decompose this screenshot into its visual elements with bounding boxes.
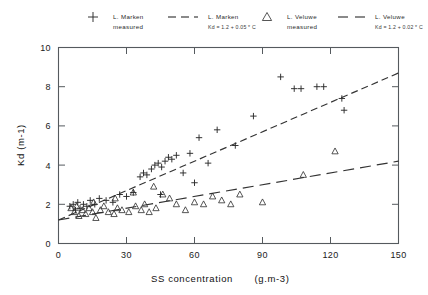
data-point-triangle: [191, 199, 197, 205]
data-point-triangle: [259, 199, 265, 205]
chart-legend: L. Marken measured L. Marken Kd = 1.2 + …: [88, 12, 423, 30]
data-point-triangle: [300, 172, 306, 178]
data-point-plus: [92, 201, 98, 207]
data-point-triangle: [173, 201, 179, 207]
data-point-triangle: [182, 207, 188, 213]
data-point-plus: [162, 158, 168, 164]
legend-equation: Kd = 1.2 + 0.05 * C: [208, 24, 256, 30]
data-point-triangle: [228, 201, 234, 207]
legend-item-veluwe-fit: L. Veluwe Kd = 1.2 + 0.02 * C: [338, 13, 423, 30]
data-point-triangle: [237, 191, 243, 197]
x-tick-label: 0: [56, 250, 61, 260]
data-point-plus: [158, 164, 164, 170]
y-axis-ticks: [59, 48, 399, 244]
scatter-plot: L. Marken measured L. Marken Kd = 1.2 + …: [0, 0, 428, 295]
data-point-plus: [291, 85, 297, 91]
data-point-triangle: [111, 211, 117, 217]
x-tick-label: 90: [257, 250, 268, 260]
data-point-triangle: [105, 209, 111, 215]
chart-figure: L. Marken measured L. Marken Kd = 1.2 + …: [0, 0, 428, 295]
data-point-triangle: [151, 183, 157, 189]
data-point-triangle: [146, 209, 152, 215]
data-point-triangle: [166, 195, 172, 201]
data-point-plus: [173, 152, 179, 158]
y-tick-label: 8: [46, 82, 51, 92]
x-axis-title: SS concentration: [151, 273, 233, 284]
legend-item-marken-measured: L. Marken measured: [88, 12, 144, 30]
data-point-plus: [196, 134, 202, 140]
x-tick-label: 60: [189, 250, 200, 260]
data-point-triangle: [200, 201, 206, 207]
data-point-triangle: [153, 205, 159, 211]
legend-label-line2: measured: [113, 23, 144, 30]
legend-label-line1: L. Marken: [208, 13, 239, 20]
plus-icon: [88, 12, 98, 22]
data-point-plus: [314, 84, 320, 90]
data-point-plus: [214, 127, 220, 133]
data-point-plus: [232, 142, 238, 148]
data-point-plus: [191, 180, 197, 186]
data-point-plus: [180, 170, 186, 176]
y-axis-title: Kd (m-1): [15, 124, 26, 166]
legend-label-line2: measured: [287, 23, 318, 30]
data-markers: [67, 74, 348, 221]
triangle-icon: [262, 13, 271, 21]
data-point-triangle: [138, 207, 144, 213]
fit-lines: [59, 73, 399, 220]
data-point-triangle: [101, 203, 107, 209]
data-point-triangle: [132, 203, 138, 209]
x-axis-ticks: [127, 48, 331, 244]
data-point-triangle: [93, 215, 99, 221]
y-tick-label: 0: [46, 239, 51, 249]
data-point-plus: [96, 195, 102, 201]
legend-item-veluwe-measured: L. Veluwe measured: [262, 13, 317, 31]
x-axis-unit: (g.m-3): [255, 273, 290, 284]
legend-label-line1: L. Veluwe: [287, 13, 317, 20]
plot-frame: [59, 48, 399, 244]
data-point-plus: [250, 113, 256, 119]
legend-item-marken-fit: L. Marken Kd = 1.2 + 0.05 * C: [168, 13, 256, 30]
legend-label-line1: L. Veluwe: [375, 13, 405, 20]
data-point-plus: [137, 174, 143, 180]
y-tick-label: 10: [40, 43, 51, 53]
data-point-plus: [341, 107, 347, 113]
x-tick-labels: 0 30 60 90 120 150: [56, 250, 407, 260]
data-point-plus: [277, 74, 283, 80]
fit-line: [59, 73, 399, 220]
y-tick-label: 4: [46, 161, 51, 171]
data-point-triangle: [126, 209, 132, 215]
x-tick-label: 30: [121, 250, 132, 260]
y-tick-labels: 0 2 4 6 8 10: [40, 43, 51, 249]
x-tick-label: 120: [322, 250, 338, 260]
data-point-triangle: [97, 207, 103, 213]
data-point-triangle: [332, 148, 338, 154]
legend-equation: Kd = 1.2 + 0.02 * C: [375, 24, 423, 30]
data-point-plus: [123, 193, 129, 199]
x-tick-label: 150: [390, 250, 406, 260]
data-point-triangle: [219, 197, 225, 203]
data-point-plus: [205, 160, 211, 166]
y-tick-label: 6: [46, 121, 51, 131]
data-point-plus: [148, 166, 154, 172]
data-point-plus: [187, 150, 193, 156]
data-point-plus: [321, 84, 327, 90]
legend-label-line1: L. Marken: [113, 13, 144, 20]
y-tick-label: 2: [46, 200, 51, 210]
data-point-plus: [298, 85, 304, 91]
